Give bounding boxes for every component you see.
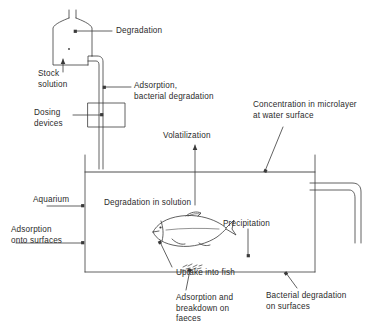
- label-aquarium: Aquarium: [33, 195, 69, 206]
- leader-uptake-fish: [160, 242, 172, 267]
- label-adsorption-breakdown-faeces: Adsorption and breakdown on faeces: [176, 293, 233, 325]
- aquarium-fate-diagram: Degradation Stock solution Adsorption, b…: [0, 0, 377, 333]
- dosing-feed-tube: [88, 56, 103, 169]
- stock-solution-flask: [53, 10, 92, 65]
- label-degradation-in-solution: Degradation in solution: [104, 198, 191, 209]
- diagram-canvas: [0, 0, 377, 333]
- label-degradation: Degradation: [116, 26, 162, 37]
- label-stock-solution: Stock solution: [38, 69, 67, 90]
- label-dosing-devices: Dosing devices: [34, 108, 63, 129]
- label-volatilization: Volatilization: [163, 131, 211, 142]
- label-adsorption-bacterial-degradation: Adsorption, bacterial degradation: [134, 81, 214, 102]
- leader-concentration-microlayer: [265, 127, 283, 171]
- outflow-pipe: [310, 183, 361, 243]
- label-concentration-microlayer: Concentration in microlayer at water sur…: [253, 100, 357, 121]
- leader-bacterial-surfaces: [286, 273, 297, 288]
- label-adsorption-onto-surfaces: Adsorption onto surfaces: [11, 225, 62, 246]
- label-uptake-into-fish: Uptake into fish: [176, 268, 235, 279]
- label-precipitation: Precipitation: [223, 219, 270, 230]
- label-bacterial-degradation-on-surfaces: Bacterial degradation on surfaces: [266, 291, 347, 312]
